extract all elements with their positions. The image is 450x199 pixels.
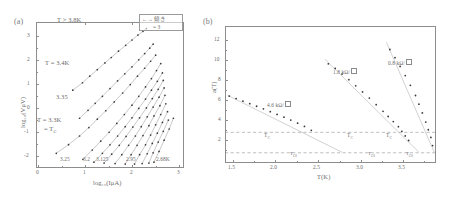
panel-b-tc0-sub: C0 xyxy=(293,154,297,158)
panel-a-curve-label: 3.2 xyxy=(83,157,90,162)
panel-a-legend-slope: = 3 xyxy=(153,25,160,30)
panel-a-annotation-upper: T = 3.4K xyxy=(45,60,69,67)
ohm-square-icon xyxy=(406,59,412,65)
figure-root: (a) 3 2 1 0 -1 -2 0 1 2 3 xyxy=(0,0,450,199)
panel-b-tc-marker: TC xyxy=(347,133,353,141)
panel-b: (b) 12 10 8 6 4 2 1.5 2.0 2.5 xyxy=(200,0,450,199)
panel-a-curve-label: 2.68K xyxy=(156,157,170,162)
panel-b-tc0-sub: C0 xyxy=(371,154,375,158)
panel-a-curve-label: 3.25 xyxy=(60,157,70,162)
panel-b-tc0-marker: TC0 xyxy=(406,152,413,158)
panel-b-tc0-marker: TC0 xyxy=(368,152,375,158)
panel-b-tc-sub: C xyxy=(389,136,392,140)
panel-a-curve-label: 2.95 xyxy=(126,157,136,162)
panel-a: (a) 3 2 1 0 -1 -2 0 1 2 3 xyxy=(0,0,210,199)
panel-a-annotation-tc-sub: C xyxy=(53,129,56,134)
panel-a-annotation-lower: T = 3.3K xyxy=(37,117,61,124)
ohm-square-icon xyxy=(351,68,357,74)
panel-b-tc-marker: TC xyxy=(386,133,392,141)
panel-a-annotation-lower-text: T = 3.3K xyxy=(37,116,61,123)
panel-b-series-label-2-text: 1.8 kΩ/ xyxy=(333,69,350,75)
panel-b-tc-marker: TC xyxy=(264,133,270,141)
ohm-square-icon xyxy=(285,101,291,107)
panel-a-annotation-tc: = TC xyxy=(44,126,57,135)
panel-a-curve-label: 3.125 xyxy=(96,157,109,162)
panel-b-series-label-1-text: 4.6 kΩ/ xyxy=(267,102,284,108)
panel-b-tc-sub: C xyxy=(350,136,353,140)
panel-a-legend-arrow-label: ←→ 傾き xyxy=(142,17,165,22)
panel-b-series-label-2: 1.8 kΩ/ xyxy=(333,68,357,75)
panel-b-tc0-marker: TC0 xyxy=(290,152,297,158)
panel-b-tc0-sub: C0 xyxy=(409,154,413,158)
panel-b-series-label-3: 0.8 kΩ/ xyxy=(388,59,412,66)
panel-b-plot xyxy=(200,0,450,199)
panel-a-annotation-mid: 3.35 xyxy=(56,94,68,101)
panel-b-tc-sub: C xyxy=(267,136,270,140)
panel-b-series-label-1: 4.6 kΩ/ xyxy=(267,101,291,108)
panel-b-series-label-3-text: 0.8 kΩ/ xyxy=(388,60,405,66)
panel-a-annotation-top: T > 3.8K xyxy=(57,17,81,24)
